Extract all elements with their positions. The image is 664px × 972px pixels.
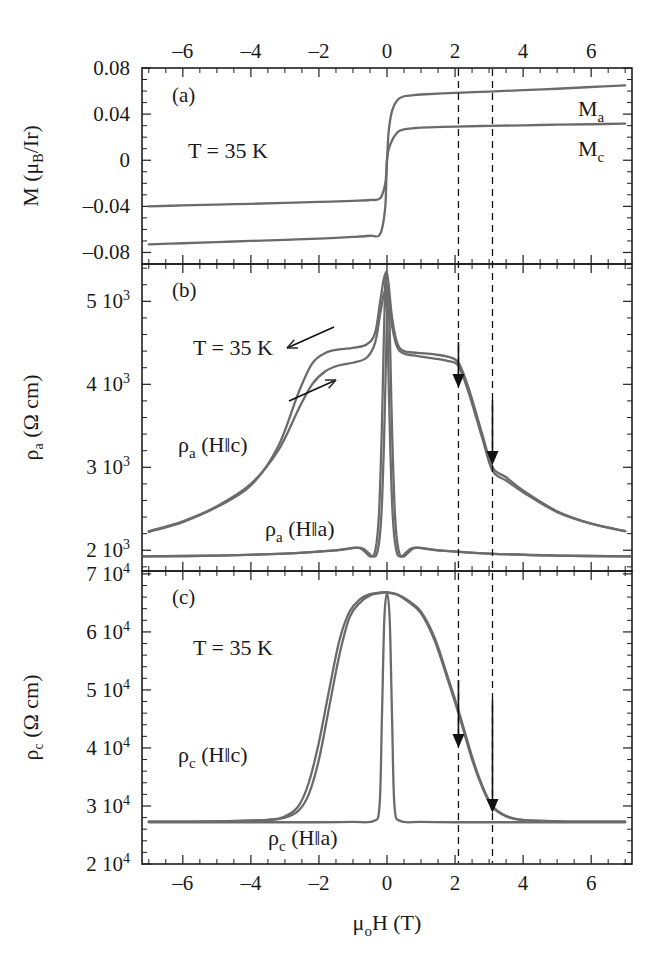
xtick-label-top: 0	[382, 39, 393, 63]
panel-c-y-axis-label-text: ρc (Ω cm)	[18, 674, 46, 760]
panel-c-ytick-label: 4 104	[86, 735, 130, 760]
panel-a-ytick-label: 0.08	[93, 56, 130, 80]
panel-c-curve-hc-up	[149, 592, 625, 821]
panel-a-curve-label-Mc: Mc	[578, 136, 605, 165]
panel-a-letter: (a)	[172, 83, 195, 107]
panel-c-y-axis-label: ρc (Ω cm)	[18, 674, 46, 760]
panel-b-y-axis-label: ρa (Ω cm)	[18, 374, 46, 460]
panel-b-temperature-label: T = 35 K	[193, 335, 273, 360]
panel-b-curve-label-rho-a-Hc: ρa (H‖c)	[178, 432, 248, 461]
xtick-label-bottom: 2	[450, 871, 461, 895]
marker-dashed-lines	[458, 69, 492, 863]
panel-a-ytick-label: –0.08	[82, 240, 130, 264]
panel-a-ytick-label: –0.04	[82, 194, 131, 218]
panel-b-ytick-label: 4 103	[86, 371, 130, 396]
axes-frames: –6–4–202460.080.040–0.04–0.085 1034 1033…	[82, 39, 632, 895]
xtick-label-bottom: –6	[171, 871, 193, 895]
panel-b-hysteresis-arrow-left	[287, 327, 334, 348]
panel-b-ytick-label: 2 103	[86, 537, 130, 562]
panel-c-down-arrow-1-head	[452, 734, 464, 748]
panel-b-y-axis-label-text: ρa (Ω cm)	[18, 374, 46, 460]
panel-c-letter: (c)	[172, 585, 195, 609]
panel-c-ytick-label: 5 104	[86, 677, 130, 702]
panel-a-curve-label-Ma: Ma	[578, 96, 605, 125]
xtick-label-top: –2	[307, 39, 329, 63]
panel-a-ytick-label: 0.04	[93, 102, 130, 126]
xtick-label-top: 4	[518, 39, 529, 63]
panel-b-down-arrow-1	[452, 342, 464, 388]
xtick-label-bottom: –2	[307, 871, 329, 895]
figure-container: –6–4–202460.080.040–0.04–0.085 1034 1033…	[0, 0, 664, 972]
multi-panel-magnetotransport-figure: –6–4–202460.080.040–0.04–0.085 1034 1033…	[0, 0, 664, 972]
xtick-label-top: 6	[586, 39, 597, 63]
x-axis-label: μoH (T)	[353, 910, 422, 939]
panel-c-temperature-label: T = 35 K	[193, 635, 273, 660]
panel-b-ytick-label: 5 103	[86, 288, 130, 313]
panel-a-frame: –6–4–202460.080.040–0.04–0.08	[82, 39, 632, 264]
panel-c-down-arrow-2	[486, 700, 498, 813]
xtick-label-top: –6	[171, 39, 193, 63]
panel-b-ytick-label: 3 103	[86, 454, 130, 479]
panel-c-curve-hc-down	[149, 592, 625, 821]
panel-c-ytick-label: 6 104	[86, 619, 130, 644]
panel-b-down-arrow-1-head	[452, 374, 464, 388]
xtick-label-top: –4	[239, 39, 262, 63]
panel-c-ytick-label: 3 104	[86, 793, 130, 818]
xtick-label-bottom: 0	[382, 871, 393, 895]
panel-c-curve-ha	[149, 593, 625, 822]
xtick-label-bottom: 6	[586, 871, 597, 895]
xtick-label-top: 2	[450, 39, 461, 63]
xtick-label-bottom: –4	[239, 871, 262, 895]
panel-b-curve-label-rho-a-Ha: ρa (H‖a)	[265, 516, 335, 545]
panel-a-temperature-label: T = 35 K	[188, 138, 268, 163]
panel-c-curve-label-rho-c-Ha: ρc (H‖a)	[268, 825, 338, 854]
xtick-label-bottom: 4	[518, 871, 529, 895]
panel-b-letter: (b)	[172, 278, 197, 302]
panel-b-curves	[141, 272, 633, 557]
panel-b-hysteresis-arrow-left-shaft	[287, 327, 334, 348]
panel-a-ytick-label: 0	[120, 148, 131, 172]
panel-c-frame: –6–4–202467 1046 1045 1044 1043 1042 104	[86, 561, 632, 895]
panel-a-curves	[149, 85, 625, 244]
panel-c-curves	[149, 592, 625, 822]
panel-c-ytick-label: 7 104	[86, 561, 130, 586]
panel-a-y-axis-label-text: M (μB/Ir)	[18, 125, 46, 207]
panel-c-curve-label-rho-c-Hc: ρc (H‖c)	[178, 742, 248, 771]
panel-a-y-axis-label: M (μB/Ir)	[18, 125, 46, 207]
panel-c-border	[142, 571, 632, 864]
panel-c-ytick-label: 2 104	[86, 851, 130, 876]
panel-c-annotation-arrows	[452, 680, 498, 813]
panel-c-down-arrow-1	[452, 680, 464, 748]
